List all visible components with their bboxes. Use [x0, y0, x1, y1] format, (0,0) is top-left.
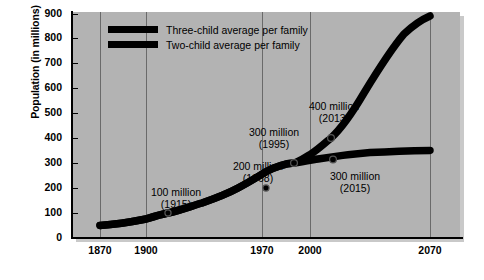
annotation-value: 300 million: [316, 170, 394, 182]
y-axis-line: [71, 11, 73, 239]
annotation-300-million-1995: 300 million (1995): [237, 126, 311, 150]
annotation-year: (2013): [297, 112, 371, 124]
annotation-year: (1915): [141, 198, 211, 210]
legend-item-two-child: Two-child average per family: [108, 37, 308, 52]
y-tick-label: 400: [18, 131, 62, 143]
annotation-value: 100 million: [141, 186, 211, 198]
gridline-1870: [100, 12, 101, 238]
y-tick-label: 300: [18, 156, 62, 168]
legend-swatch-icon: [108, 41, 158, 48]
y-tick-label: 0: [18, 231, 62, 243]
annotation-value: 400 million: [297, 100, 371, 112]
y-tick-label: 200: [18, 181, 62, 193]
population-growth-chart: Population (in millions) 0 100 200 300 4…: [0, 0, 484, 280]
annotation-value: 200 million: [221, 160, 295, 172]
x-tick-label-2070: 2070: [400, 244, 460, 256]
annotation-300-million-2015: 300 million (2015): [316, 170, 394, 194]
chart-legend: Three-child average per family Two-child…: [108, 22, 308, 52]
y-tick-label: 700: [18, 56, 62, 68]
legend-item-three-child: Three-child average per family: [108, 22, 308, 37]
legend-swatch-icon: [108, 26, 158, 33]
legend-label: Three-child average per family: [166, 24, 308, 36]
annotation-400-million: 400 million (2013): [297, 100, 371, 124]
legend-label: Two-child average per family: [166, 39, 300, 51]
y-tick-label: 500: [18, 106, 62, 118]
x-tick-label-2000: 2000: [280, 244, 340, 256]
y-tick-label: 100: [18, 206, 62, 218]
x-axis-line: [71, 237, 463, 239]
annotation-year: (1995): [237, 138, 311, 150]
y-tick-label: 900: [18, 7, 62, 19]
annotation-value: 300 million: [237, 126, 311, 138]
y-tick-label: 800: [18, 31, 62, 43]
x-tick-label-1900: 1900: [116, 244, 176, 256]
gridline-2070: [430, 12, 431, 238]
annotation-200-million: 200 million (1968): [221, 160, 295, 184]
annotation-100-million: 100 million (1915): [141, 186, 211, 210]
gridline-2000: [310, 12, 311, 238]
y-tick-label: 600: [18, 81, 62, 93]
annotation-year: (2015): [316, 182, 394, 194]
annotation-year: (1968): [221, 172, 295, 184]
